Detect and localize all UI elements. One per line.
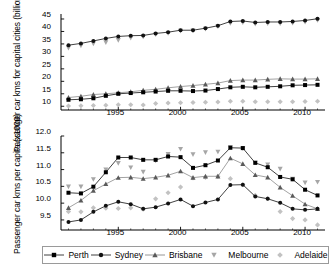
x-axis-ticks-bottom: 1995200020052010 <box>58 227 322 241</box>
legend-item-adelaide: Adelaide <box>269 250 327 260</box>
y-axis-tick-label: 35 <box>42 36 51 44</box>
diamond-marker-icon <box>269 250 291 260</box>
legend-label: Perth <box>68 251 88 260</box>
series-adelaide <box>66 174 320 228</box>
x-axis-tick-label: 2005 <box>231 229 249 237</box>
x-axis-tick-label: 1995 <box>106 109 124 117</box>
plot-svg-top <box>58 10 328 114</box>
y-axis-tick-label: 25 <box>42 61 51 69</box>
y-axis-tick-label: 15 <box>42 86 51 94</box>
y-axis-tick-label: 10 <box>42 98 51 106</box>
plot-area-top <box>58 10 322 106</box>
x-axis-tick-label: 2000 <box>169 109 187 117</box>
y-axis-tick-label: 12.0 <box>35 128 51 136</box>
series-sydney <box>66 17 319 47</box>
legend-label: Brisbane <box>169 251 203 260</box>
x-axis-tick-label: 2005 <box>231 109 249 117</box>
legend-item-sydney: Sydney <box>90 250 143 260</box>
chart-legend: PerthSydneyBrisbaneMelbourneAdelaide <box>42 246 329 264</box>
x-axis-tick-label: 2010 <box>293 229 311 237</box>
triangle-marker-icon <box>144 250 166 260</box>
circle-marker-icon <box>90 250 112 260</box>
legend-label: Adelaide <box>294 251 327 260</box>
plot-svg-bottom <box>58 132 328 234</box>
y-axis-tick-label: 11.5 <box>36 145 51 153</box>
y-axis-ticks-top: 1015202530354045 <box>20 10 54 106</box>
y-axis-tick-label: 40 <box>42 23 51 31</box>
plot-area-bottom <box>58 132 322 226</box>
series-melbourne <box>66 18 320 50</box>
y-axis-tick-label: 9.5 <box>40 212 51 220</box>
chart-panel-bottom: Passenger car kms per capita (x1000) 9.5… <box>0 128 335 240</box>
y-axis-tick-label: 10.0 <box>35 195 51 203</box>
legend-label: Melbourne <box>228 251 268 260</box>
chart-panel-top: Passenger car kms for capital cities (bi… <box>0 6 335 126</box>
y-axis-tick-label: 30 <box>42 48 51 56</box>
y-axis-tick-label: 10.5 <box>35 178 51 186</box>
x-axis-tick-label: 2000 <box>169 229 187 237</box>
y-axis-tick-label: 20 <box>42 73 51 81</box>
y-axis-ticks-bottom: 9.510.010.511.011.512.0 <box>20 132 54 226</box>
square-marker-icon <box>43 250 65 260</box>
y-axis-tick-label: 45 <box>42 11 51 19</box>
x-axis-ticks-top: 1995200020052010 <box>58 107 322 121</box>
figure-root: Passenger car kms for capital cities (bi… <box>0 0 335 269</box>
x-axis-tick-label: 1995 <box>106 229 124 237</box>
x-axis-tick-label: 2010 <box>293 109 311 117</box>
inv-triangle-marker-icon <box>203 250 225 260</box>
y-axis-tick-label: 11.0 <box>36 162 51 170</box>
legend-item-perth: Perth <box>43 250 88 260</box>
legend-item-melbourne: Melbourne <box>203 250 268 260</box>
legend-label: Sydney <box>115 251 143 260</box>
legend-item-brisbane: Brisbane <box>144 250 203 260</box>
